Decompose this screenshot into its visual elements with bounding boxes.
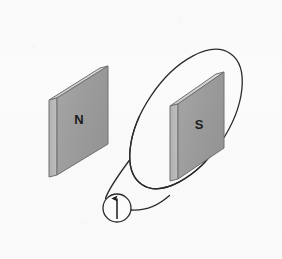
- right-lead-wire: [131, 196, 170, 211]
- magnet-south: S: [170, 72, 224, 181]
- magnet-loop-diagram: N S: [0, 0, 282, 259]
- diagram-canvas: N S: [0, 0, 282, 259]
- magnet-north: N: [49, 66, 108, 177]
- left-lead-wire: [106, 161, 130, 199]
- current-meter[interactable]: [103, 194, 131, 222]
- magnet-north-label: N: [74, 112, 83, 127]
- magnet-south-side-face: [170, 104, 178, 181]
- magnet-north-side-face: [49, 98, 57, 177]
- magnet-south-label: S: [195, 117, 204, 132]
